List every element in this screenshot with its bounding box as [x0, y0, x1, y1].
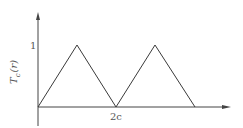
ylabel-arg: (r) [8, 60, 19, 73]
ylabel-sub: c [14, 73, 22, 77]
y-axis-arrow-icon [36, 12, 40, 20]
ytick-label-1: 1 [30, 40, 36, 51]
svg-text:Tc(r): Tc(r) [8, 60, 22, 84]
ylabel: Tc(r) [8, 60, 22, 84]
x-axis-arrow-icon [222, 105, 231, 109]
chart: 1 2c Tc(r) [0, 0, 243, 128]
xtick-label-2c: 2c [110, 111, 122, 122]
data-line [38, 45, 195, 107]
